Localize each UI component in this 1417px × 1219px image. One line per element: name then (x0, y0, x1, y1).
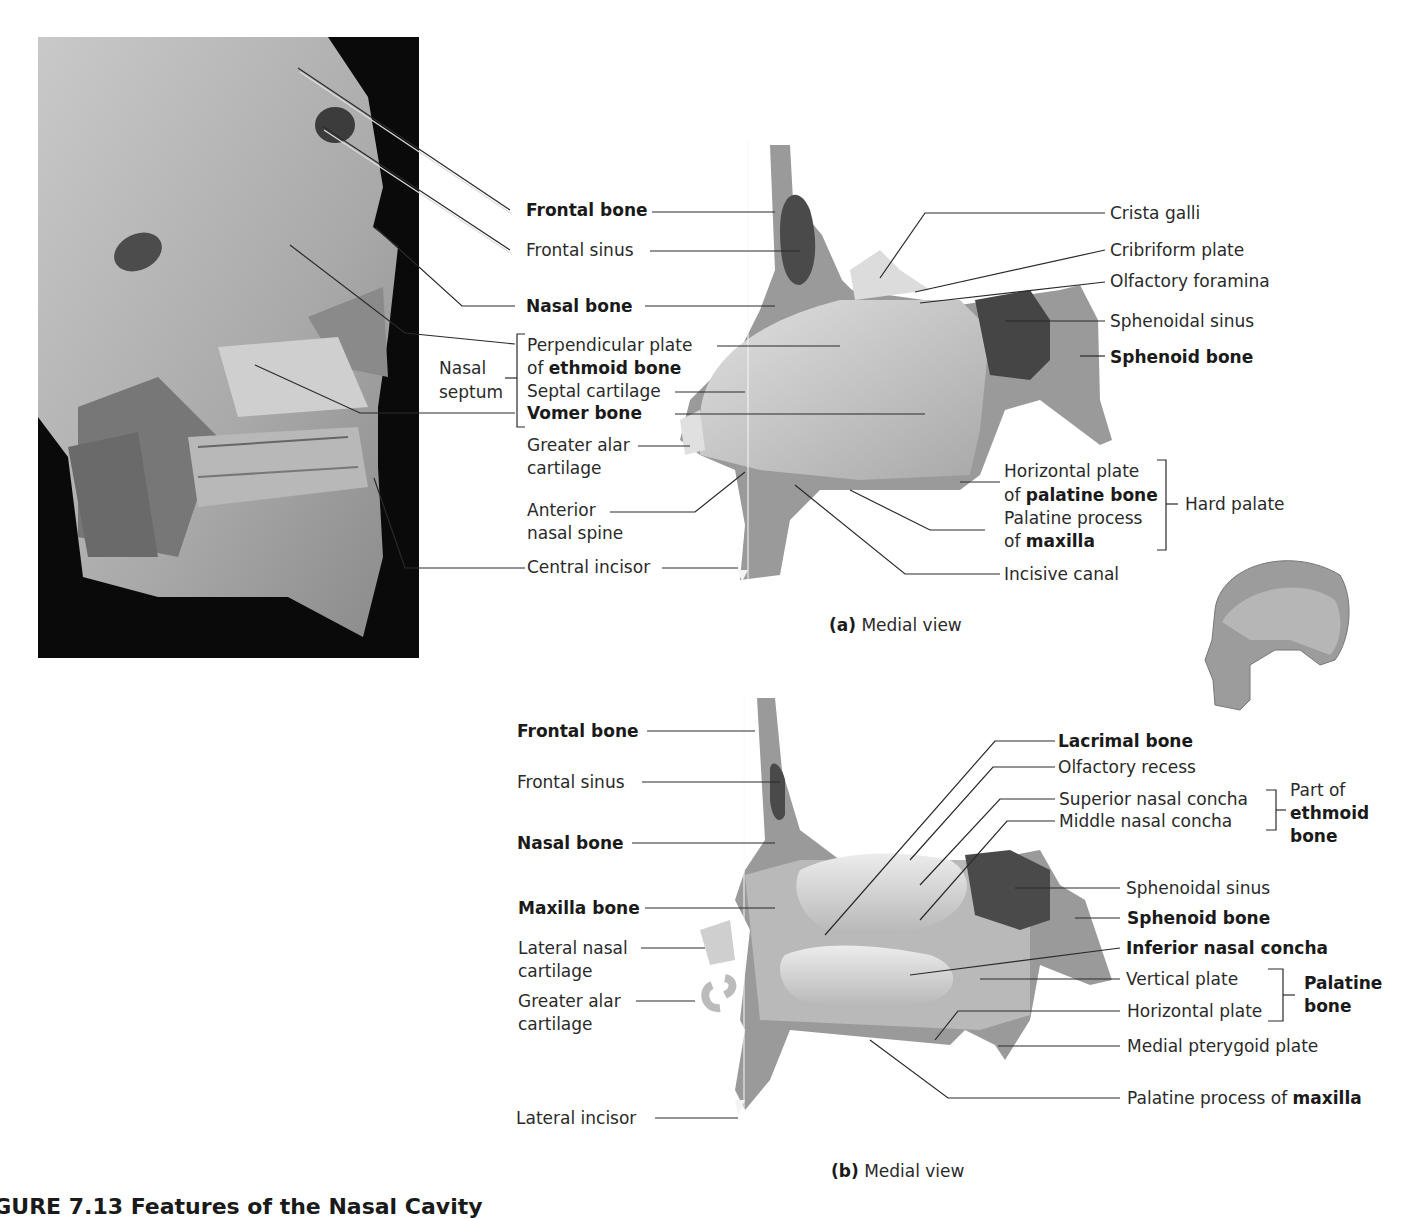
label-a-frontal-sinus: Frontal sinus (526, 240, 634, 261)
label-b-nasal-bone: Nasal bone (517, 833, 624, 854)
label-a-cribriform-plate: Cribriform plate (1110, 240, 1244, 261)
label-a-ethmoid-bone: ethmoid bone (549, 358, 682, 378)
label-b-maxilla: maxilla (1293, 1088, 1362, 1108)
label-a-perpendicular-plate: Perpendicular plate (527, 335, 692, 356)
label-a-nasal-bone: Nasal bone (526, 296, 633, 317)
label-a-septal-cartilage: Septal cartilage (527, 381, 661, 402)
label-a-horizontal-plate-line2: of palatine bone (1004, 485, 1158, 506)
figure-title: FIGURE 7.13 Features of the Nasal Cavity (0, 1194, 483, 1219)
label-b-part-of-line3: bone (1290, 826, 1337, 847)
label-b-part-of-line1: Part of (1290, 780, 1345, 801)
panel-b-illustration (700, 695, 1112, 1115)
label-b-inferior-concha: Inferior nasal concha (1126, 938, 1328, 959)
label-b-medial-pterygoid: Medial pterygoid plate (1127, 1036, 1318, 1057)
label-b-vertical-plate: Vertical plate (1126, 969, 1238, 990)
photo-leader-lines (255, 68, 525, 568)
label-b-lacrimal-bone: Lacrimal bone (1058, 731, 1193, 752)
label-b-frontal-sinus: Frontal sinus (517, 772, 625, 793)
label-b-olfactory-recess: Olfactory recess (1058, 757, 1196, 778)
label-a-sphenoidal-sinus: Sphenoidal sinus (1110, 311, 1254, 332)
label-a-incisive-canal: Incisive canal (1004, 564, 1119, 585)
label-a-nasal-septum-line1: Nasal (439, 358, 486, 379)
label-b-sphenoid-bone: Sphenoid bone (1127, 908, 1270, 929)
label-b-frontal-bone: Frontal bone (517, 721, 639, 742)
caption-a: (a) Medial view (829, 615, 962, 635)
label-a-vomer-bone: Vomer bone (527, 403, 642, 424)
label-a-anterior-spine-line1: Anterior (527, 500, 596, 521)
label-b-palatine-line1: Palatine (1304, 973, 1382, 994)
label-a-palatine-process-line1: Palatine process (1004, 508, 1142, 529)
label-b-maxilla-bone: Maxilla bone (518, 898, 640, 919)
label-a-anterior-spine-line2: nasal spine (527, 523, 623, 544)
label-b-lateral-incisor: Lateral incisor (516, 1108, 636, 1129)
label-a-hard-palate: Hard palate (1185, 494, 1285, 515)
label-a-maxilla: maxilla (1026, 531, 1095, 551)
label-b-superior-concha: Superior nasal concha (1059, 789, 1248, 810)
label-b-horizontal-plate: Horizontal plate (1127, 1001, 1262, 1022)
label-b-lateral-nasal-line2: cartilage (518, 961, 593, 982)
label-b-lateral-nasal-line1: Lateral nasal (518, 938, 628, 959)
label-b-part-of-line2: ethmoid (1290, 803, 1369, 824)
label-a-olfactory-foramina: Olfactory foramina (1110, 271, 1270, 292)
label-a-central-incisor: Central incisor (527, 557, 650, 578)
label-a-horizontal-plate-line1: Horizontal plate (1004, 461, 1139, 482)
label-a-palatine-process-line2: of maxilla (1004, 531, 1095, 552)
label-a-crista-galli: Crista galli (1110, 203, 1200, 224)
label-b-greater-alar-line2: cartilage (518, 1014, 593, 1035)
label-a-sphenoid-bone: Sphenoid bone (1110, 347, 1253, 368)
caption-b: (b) Medial view (831, 1161, 964, 1181)
label-a-palatine-bone: palatine bone (1026, 485, 1158, 505)
label-a-greater-alar-line1: Greater alar (527, 435, 630, 456)
label-a-greater-alar-line2: cartilage (527, 458, 602, 479)
label-a-frontal-bone: Frontal bone (526, 200, 648, 221)
label-b-palatine-line2: bone (1304, 996, 1351, 1017)
label-b-palatine-process: Palatine process of maxilla (1127, 1088, 1362, 1109)
label-a-nasal-septum-line2: septum (439, 382, 503, 403)
label-b-greater-alar-line1: Greater alar (518, 991, 621, 1012)
label-a-perpendicular-plate-line2: of ethmoid bone (527, 358, 681, 379)
label-b-middle-concha: Middle nasal concha (1059, 811, 1232, 832)
skull-inset-illustration (1205, 561, 1349, 710)
label-b-sphenoidal-sinus: Sphenoidal sinus (1126, 878, 1270, 899)
